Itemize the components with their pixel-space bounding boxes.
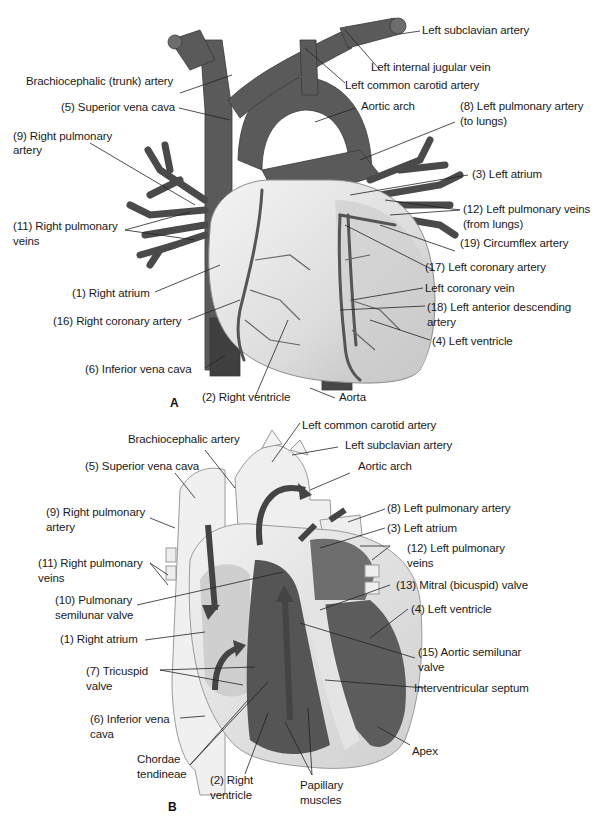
label-b-left-pulmonary-veins: (12) Left pulmonary — [407, 541, 505, 555]
label-a-left-pulmonary-artery-line2: (to lungs) — [460, 114, 507, 128]
label-b-chordae-tendineae: Chordae — [137, 752, 180, 766]
label-b-tricuspid-valve-line2: valve — [86, 679, 112, 693]
label-a-left-anterior-descending-line2: artery — [427, 315, 456, 329]
label-b-left-subclavian-artery: Left subclavian artery — [345, 438, 452, 452]
label-a-right-pulmonary-veins: (11) Right pulmonary — [13, 219, 118, 233]
panel-label-a: A — [170, 396, 179, 410]
label-b-right-pulmonary-artery-line2: artery — [46, 520, 75, 534]
label-b-aortic-arch: Aortic arch — [358, 459, 412, 473]
label-a-circumflex-artery: (19) Circumflex artery — [460, 236, 568, 250]
label-a-left-pulmonary-artery: (8) Left pulmonary artery — [460, 99, 583, 113]
label-b-tricuspid-valve: (7) Tricuspid — [86, 664, 148, 678]
label-b-left-common-carotid-artery: Left common carotid artery — [302, 418, 436, 432]
panel-label-b: B — [168, 800, 177, 814]
label-b-aortic-semilunar-valve-line2: valve — [418, 660, 444, 674]
label-a-left-atrium: (3) Left atrium — [472, 167, 542, 181]
label-a-left-coronary-vein: Left coronary vein — [425, 281, 515, 295]
label-a-right-coronary-artery: (16) Right coronary artery — [53, 314, 181, 328]
label-a-right-atrium: (1) Right atrium — [72, 286, 150, 300]
label-b-inferior-vena-cava: (6) Inferior vena — [90, 712, 169, 726]
label-a-brachiocephalic-trunk-artery: Brachiocephalic (trunk) artery — [26, 74, 173, 88]
label-b-apex: Apex — [412, 744, 438, 758]
label-a-left-ventricle: (4) Left ventricle — [432, 334, 513, 348]
label-b-left-pulmonary-artery: (8) Left pulmonary artery — [387, 501, 510, 515]
label-b-right-ventricle: (2) Right — [210, 773, 253, 787]
label-a-inferior-vena-cava: (6) Inferior vena cava — [85, 362, 191, 376]
label-b-interventricular-septum: Interventricular septum — [414, 681, 529, 695]
label-b-left-atrium: (3) Left atrium — [387, 521, 457, 535]
label-b-pulmonary-semilunar-valve: (10) Pulmonary — [55, 593, 132, 607]
heart-anatomy-figure: Left subclavian artery Left internal jug… — [0, 0, 606, 817]
label-b-pulmonary-semilunar-valve-line2: semilunar valve — [55, 608, 133, 622]
label-a-left-common-carotid-artery: Left common carotid artery — [345, 78, 479, 92]
label-b-superior-vena-cava: (5) Superior vena cava — [85, 459, 199, 473]
label-b-right-pulmonary-artery: (9) Right pulmonary — [46, 505, 145, 519]
label-a-left-pulmonary-veins-line2: (from lungs) — [463, 217, 523, 231]
label-b-mitral-valve: (13) Mitral (bicuspid) valve — [396, 578, 528, 592]
label-b-inferior-vena-cava-line2: cava — [90, 727, 114, 741]
label-b-chordae-tendineae-line2: tendineae — [137, 767, 187, 781]
label-a-superior-vena-cava: (5) Superior vena cava — [61, 100, 175, 114]
label-b-right-ventricle-line2: ventricle — [210, 788, 252, 802]
label-a-left-coronary-artery: (17) Left coronary artery — [425, 260, 546, 274]
label-a-right-pulmonary-veins-line2: veins — [13, 234, 39, 248]
label-b-left-ventricle: (4) Left ventricle — [411, 602, 492, 616]
label-a-left-internal-jugular-vein: Left internal jugular vein — [371, 60, 491, 74]
label-a-right-ventricle: (2) Right ventricle — [202, 390, 290, 404]
label-a-left-pulmonary-veins: (12) Left pulmonary veins — [463, 202, 590, 216]
right-pulmonary-tree-a — [130, 145, 205, 265]
label-b-brachiocephalic-artery: Brachiocephalic artery — [128, 432, 240, 446]
label-a-right-pulmonary-artery: (9) Right pulmonary — [13, 129, 112, 143]
label-a-aortic-arch: Aortic arch — [361, 99, 415, 113]
label-b-right-pulmonary-veins: (11) Right pulmonary — [38, 556, 143, 570]
label-a-right-pulmonary-artery-line2: artery — [13, 143, 42, 157]
label-b-aortic-semilunar-valve: (15) Aortic semilunar — [418, 645, 521, 659]
label-b-papillary-muscles-line2: muscles — [300, 793, 341, 807]
label-a-left-subclavian-artery: Left subclavian artery — [422, 23, 529, 37]
label-a-left-anterior-descending: (18) Left anterior descending — [427, 300, 571, 314]
label-b-right-pulmonary-veins-line2: veins — [38, 571, 64, 585]
label-b-papillary-muscles: Papillary — [300, 778, 343, 792]
label-b-left-pulmonary-veins-line2: veins — [407, 556, 433, 570]
label-b-right-atrium: (1) Right atrium — [60, 632, 138, 646]
label-a-aorta: Aorta — [339, 390, 366, 404]
